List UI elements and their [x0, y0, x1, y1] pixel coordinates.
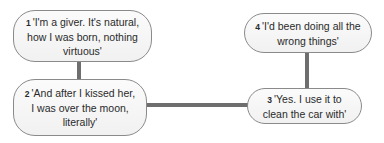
node-text: 'Yes. I use it to clean the car with' — [263, 93, 347, 120]
node-2: 2'And after I kissed her, I was over the… — [13, 79, 147, 136]
node-text: 'I'm a giver. It's natural, how I was bo… — [27, 16, 139, 57]
node-4: 4'I'd been doing all the wrong things' — [244, 13, 372, 53]
connector-3-4 — [305, 52, 309, 89]
node-text: 'I'd been doing all the wrong things' — [262, 20, 361, 47]
node-number: 3 — [267, 95, 272, 105]
node-number: 2 — [25, 89, 30, 99]
node-number: 4 — [255, 22, 260, 32]
connector-2-3 — [146, 103, 248, 107]
node-text: 'And after I kissed her, I was over the … — [31, 87, 135, 128]
node-1: 1'I'm a giver. It's natural, how I was b… — [13, 10, 152, 62]
connector-1-2 — [77, 61, 81, 80]
node-3: 3'Yes. I use it to clean the car with' — [247, 88, 362, 124]
node-number: 1 — [26, 18, 31, 28]
